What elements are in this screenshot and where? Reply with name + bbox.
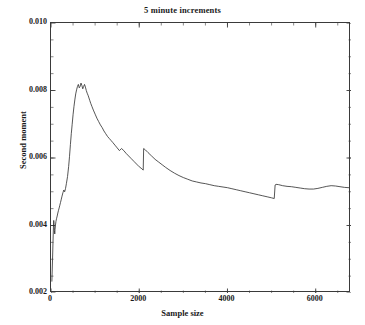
minor-tick-marks bbox=[51, 23, 351, 293]
plot-svg bbox=[51, 23, 351, 293]
x-tick-label: 2000 bbox=[115, 295, 161, 303]
y-tick-label: 0.006 bbox=[7, 153, 47, 161]
x-tick-label: 0 bbox=[27, 295, 73, 303]
y-tick-label: 0.010 bbox=[7, 18, 47, 26]
x-axis-title: Sample size bbox=[0, 308, 365, 318]
plot-area bbox=[50, 22, 350, 292]
major-tick-marks bbox=[51, 23, 351, 293]
y-tick-label: 0.008 bbox=[7, 86, 47, 94]
data-series-line bbox=[52, 83, 349, 281]
chart-title: 5 minute increments bbox=[0, 5, 365, 15]
y-tick-label: 0.004 bbox=[7, 221, 47, 229]
x-tick-label: 6000 bbox=[292, 295, 338, 303]
x-tick-label: 4000 bbox=[203, 295, 249, 303]
chart-figure: 5 minute increments Second moment Sample… bbox=[0, 0, 365, 325]
tick-marks-group bbox=[51, 23, 351, 293]
